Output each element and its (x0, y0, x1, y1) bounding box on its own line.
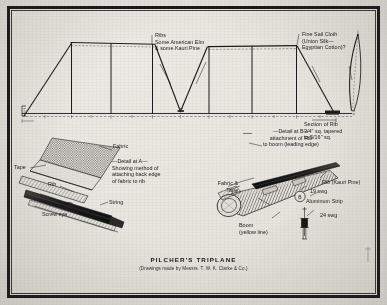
detail-a-label-rib: Rib (48, 181, 70, 188)
detail-b-caption: —Detail at B— attachment of Rib to boom … (239, 128, 343, 148)
plate-title: PILCHER'S TRIPLANE (0, 256, 387, 263)
plan-label-sail-cloth: Fine Sail Cloth (Union Silk— Egyptian Co… (302, 31, 378, 51)
detail-a-caption: —Detail at A— Showing method of attachin… (112, 158, 204, 184)
plate-subtitle: (Drawings made by Messrs. T. W. K. Clark… (0, 266, 387, 271)
pilcher-triplane-plate: B (0, 0, 387, 305)
detail-a-label-string: String (109, 199, 139, 206)
detail-b-label-19-swg: 19 swg (310, 188, 340, 195)
detail-a-label-screw-eye: Screw eye (42, 211, 86, 218)
detail-a-label-tape: Tape (14, 164, 38, 171)
plan-label-ribs: Ribs Some American Elm & some Kauri Pine (155, 32, 235, 52)
detail-b-label-aluminum-strip: Aluminum Strip (306, 198, 364, 205)
detail-b-label-fabric-tape: Fabric & Tape (196, 180, 238, 193)
plate-inner-rule (11, 10, 376, 294)
detail-a-label-fabric: Fabric (113, 143, 153, 150)
detail-b-label-24-swg: 24 swg (320, 212, 350, 219)
detail-b-label-boom: Boom (yellow line) (239, 222, 289, 235)
detail-b-label-rib: Rib (Kauri Pine) (322, 179, 384, 186)
